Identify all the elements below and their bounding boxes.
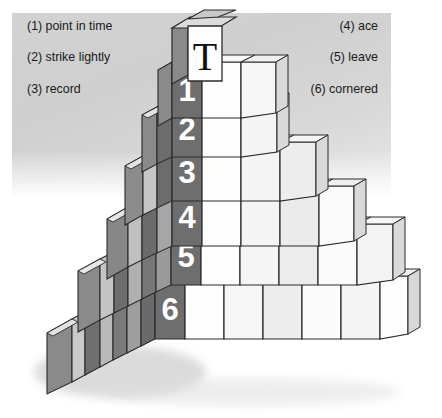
numbered-cube-6-label: 6 bbox=[161, 292, 178, 327]
numbered-cube-3-label: 3 bbox=[178, 155, 195, 190]
apex-cube-label: T bbox=[193, 34, 217, 79]
puzzle-illustration: (1) point in time (2) strike lightly (3)… bbox=[0, 0, 442, 418]
numbered-cube-4-label: 4 bbox=[178, 200, 196, 235]
cube-pyramid: 6 bbox=[0, 0, 442, 418]
apex-cube-left-face bbox=[172, 19, 188, 84]
row-1-left-side bbox=[158, 62, 172, 126]
